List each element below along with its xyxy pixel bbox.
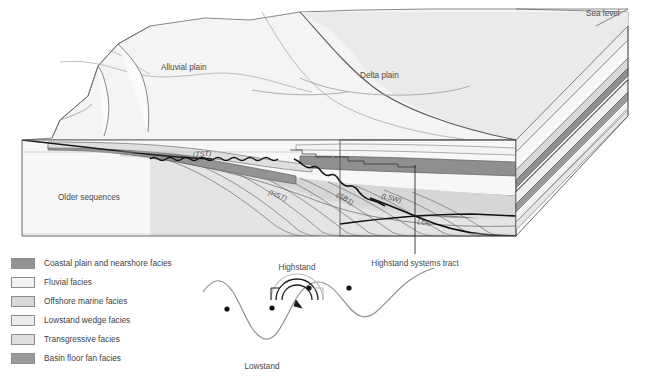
legend-item: Transgressive facies [11,330,211,349]
legend-item: Basin floor fan facies [11,349,211,368]
curve-marker [224,306,229,311]
curve-marker [306,285,311,290]
label-delta-plain: Delta plain [360,71,399,80]
legend: Coastal plain and nearshore facies Fluvi… [11,254,211,368]
block-front-face [22,140,516,236]
label-sea-level: Sea level [586,9,620,18]
legend-item: Fluvial facies [11,273,211,292]
sea-level-curve-group: Highstand Lowstand [203,263,434,371]
legend-item: Coastal plain and nearshore facies [11,254,211,273]
legend-label: Basin floor fan facies [44,354,121,362]
label-lowstand: Lowstand [244,362,279,371]
label-older-sequences: Older sequences [58,193,120,202]
callout-highstand-systems-tract: Highstand systems tract [371,259,459,268]
sea-level-curve-path [203,268,434,339]
legend-swatch-offshore-marine [11,296,35,307]
curve-marker [346,285,351,290]
legend-item: Offshore marine facies [11,292,211,311]
legend-swatch-fluvial [11,277,35,288]
label-alluvial-plain: Alluvial plain [161,63,207,72]
legend-swatch-lowstand-wedge [11,315,35,326]
legend-item: Lowstand wedge facies [11,311,211,330]
legend-label: Transgressive facies [44,335,120,343]
label-tst: (TST) [193,149,212,159]
magnifier-arrow [294,300,302,308]
legend-swatch-transgressive [11,334,35,345]
legend-label: Lowstand wedge facies [44,316,130,324]
figure-canvas: Sea level Alluvial plain Delta plain Old… [0,0,645,379]
legend-label: Offshore marine facies [44,297,127,305]
curve-marker [269,305,274,310]
legend-label: Fluvial facies [44,278,92,286]
legend-swatch-coastal-plain [11,258,35,269]
legend-swatch-basin-floor-fan [11,353,35,364]
label-highstand: Highstand [279,263,316,272]
legend-label: Coastal plain and nearshore facies [44,259,172,267]
